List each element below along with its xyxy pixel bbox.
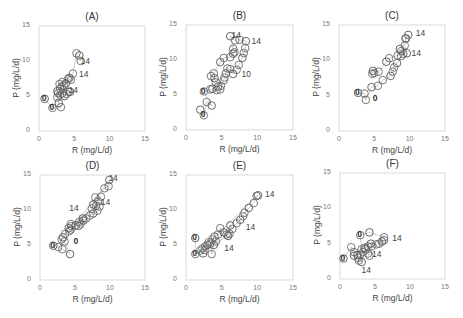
point-annotation: 14 (392, 233, 401, 243)
y-tick-label: 10 (323, 203, 331, 210)
point-annotation: 14 (372, 249, 381, 259)
plot-area (0, 0, 463, 318)
x-tick-label: 15 (441, 283, 449, 290)
x-tick-label: 10 (406, 283, 414, 290)
x-axis-label: R (mg/L/d) (338, 293, 448, 303)
x-tick-label: 5 (373, 283, 377, 290)
y-tick-label: 15 (323, 168, 331, 175)
point-annotation: 14 (362, 265, 371, 275)
point-annotation: 0 (341, 253, 346, 263)
y-axis-label: P (mg/L/d) (312, 185, 322, 265)
x-tick-label: 0 (338, 283, 342, 290)
point-annotation: 0 (357, 229, 362, 239)
y-tick-label: 0 (327, 274, 331, 281)
y-tick-label: 5 (327, 239, 331, 246)
